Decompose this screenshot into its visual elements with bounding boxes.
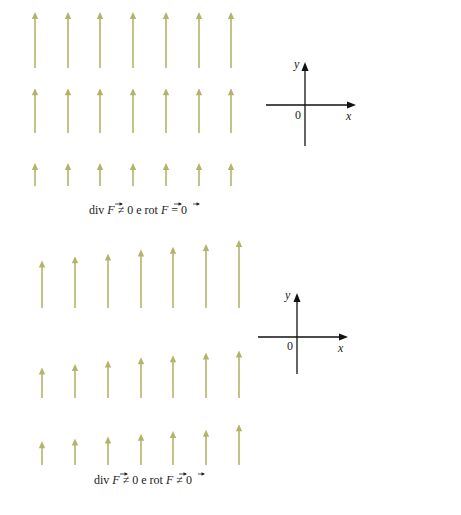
- x-axis-arrowhead-icon: [339, 334, 348, 341]
- caption-zero-vector: 0: [181, 203, 187, 217]
- vector-arrow: [32, 163, 38, 186]
- vector-arrow: [196, 163, 202, 186]
- arrowhead-icon: [72, 256, 78, 263]
- svg-text:div F ≠ 0 e rot F ≠ 0: div F ≠ 0 e rot F ≠ 0: [94, 473, 192, 487]
- arrowhead-icon: [196, 88, 202, 95]
- arrowhead-icon: [138, 250, 144, 257]
- axes-bottom: y x 0: [258, 288, 348, 374]
- origin-label: 0: [295, 108, 301, 122]
- vector-arrow: [65, 88, 71, 133]
- arrowhead-icon: [65, 163, 71, 170]
- arrowhead-icon: [130, 88, 136, 95]
- arrowhead-icon: [39, 367, 45, 374]
- vector-arrow: [130, 163, 136, 186]
- vector-arrow: [130, 12, 136, 68]
- vector-arrow: [203, 352, 209, 398]
- caption-zero-vector: 0: [186, 473, 192, 487]
- vector-arrow: [170, 247, 176, 308]
- axes-top: y x 0: [266, 57, 356, 146]
- arrowhead-icon: [130, 163, 136, 170]
- arrowhead-icon: [203, 352, 209, 359]
- vector-arrow: [203, 430, 209, 465]
- y-axis-label: y: [293, 57, 300, 71]
- arrowhead-icon: [163, 88, 169, 95]
- vector-arrow: [72, 256, 78, 308]
- arrowhead-icon: [236, 350, 242, 357]
- arrowhead-icon: [163, 163, 169, 170]
- arrowhead-icon: [170, 247, 176, 254]
- arrowhead-icon: [196, 163, 202, 170]
- vector-arrow: [105, 361, 111, 398]
- y-axis-arrowhead-icon: [294, 293, 301, 302]
- arrowhead-icon: [138, 357, 144, 364]
- vector-arrow: [163, 12, 169, 68]
- vector-arrow: [105, 254, 111, 308]
- vector-arrow: [228, 12, 234, 68]
- arrowhead-icon: [105, 361, 111, 368]
- arrowhead-icon: [170, 431, 176, 438]
- vector-arrow: [138, 434, 144, 465]
- vector-arrow: [32, 12, 38, 68]
- vector-arrow: [170, 355, 176, 398]
- vector-arrow: [39, 367, 45, 398]
- vector-arrow: [170, 431, 176, 465]
- arrowhead-icon: [196, 12, 202, 19]
- y-axis-label: y: [284, 288, 291, 302]
- caption-mid: ≠ 0 e rot: [115, 203, 161, 217]
- arrowhead-icon: [138, 434, 144, 441]
- arrowhead-icon: [65, 12, 71, 19]
- vector-arrow: [97, 88, 103, 133]
- arrow-field-bottom: [39, 240, 242, 465]
- arrowhead-icon: [39, 441, 45, 448]
- arrowhead-icon: [105, 254, 111, 261]
- vector-arrow: [196, 88, 202, 133]
- y-axis-arrowhead-icon: [302, 62, 309, 71]
- arrowhead-icon: [228, 163, 234, 170]
- vector-arrow: [105, 436, 111, 465]
- vector-arrow: [72, 364, 78, 398]
- vector-arrow: [228, 88, 234, 133]
- caption-div: div: [89, 203, 107, 217]
- arrowhead-icon: [130, 12, 136, 19]
- arrowhead-icon: [72, 438, 78, 445]
- vector-arrow: [236, 350, 242, 398]
- arrowhead-icon: [203, 430, 209, 437]
- vector-arrow: [39, 260, 45, 308]
- arrowhead-icon: [228, 12, 234, 19]
- vector-arrow: [236, 240, 242, 308]
- origin-label: 0: [287, 339, 293, 353]
- arrowhead-icon: [32, 88, 38, 95]
- arrow-fields: [32, 12, 242, 465]
- arrowhead-icon: [39, 260, 45, 267]
- arrow-field-top: [32, 12, 234, 186]
- arrowhead-icon: [97, 12, 103, 19]
- arrowhead-icon: [228, 88, 234, 95]
- vector-arrow: [65, 163, 71, 186]
- vector-arrow: [72, 438, 78, 465]
- vector-arrow: [163, 163, 169, 186]
- x-axis-arrowhead-icon: [347, 102, 356, 109]
- arrowhead-icon: [236, 240, 242, 247]
- arrowhead-icon: [65, 88, 71, 95]
- vector-arrow: [138, 250, 144, 308]
- vector-arrow: [236, 424, 242, 465]
- caption-top: div F ≠ 0 e rot F = 0: [89, 202, 200, 217]
- svg-text:div F ≠ 0 e rot F = 0: div F ≠ 0 e rot F = 0: [89, 203, 187, 217]
- vector-arrow: [203, 244, 209, 308]
- caption-mid: ≠ 0 e rot: [120, 473, 166, 487]
- vector-arrow: [130, 88, 136, 133]
- vector-arrow: [138, 357, 144, 398]
- vector-arrow: [97, 12, 103, 68]
- vector-arrow: [39, 441, 45, 465]
- arrowhead-icon: [236, 424, 242, 431]
- vector-arrow: [196, 12, 202, 68]
- arrowhead-icon: [105, 436, 111, 443]
- caption-bottom: div F ≠ 0 e rot F ≠ 0: [94, 472, 205, 487]
- arrowhead-icon: [203, 244, 209, 251]
- vector-arrow: [228, 163, 234, 186]
- arrowhead-icon: [72, 364, 78, 371]
- arrowhead-icon: [170, 355, 176, 362]
- vector-arrow: [65, 12, 71, 68]
- vector-field-diagram: y x 0 y x 0 div F ≠ 0 e rot F = 0 div F …: [0, 0, 461, 515]
- vector-arrow: [32, 88, 38, 133]
